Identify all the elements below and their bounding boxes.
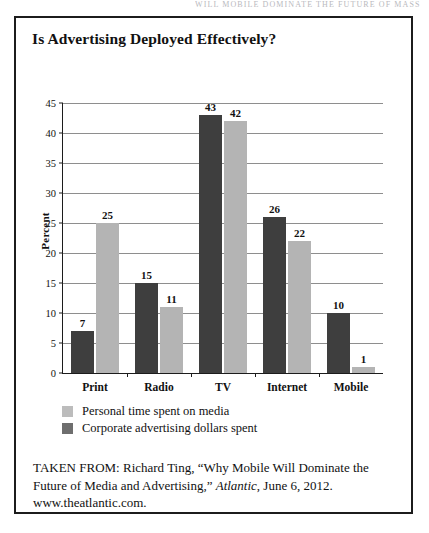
gridline <box>63 163 383 164</box>
bar-mobile-corporate: 10 <box>327 313 350 373</box>
y-axis-tick-mark <box>59 283 63 284</box>
y-axis-tick-label: 20 <box>46 248 57 259</box>
source-publication: Atlantic <box>216 478 257 493</box>
figure-container: Is Advertising Deployed Effectively? Per… <box>14 16 413 514</box>
bar-value-label: 42 <box>230 107 241 119</box>
y-axis-tick-mark <box>59 103 63 104</box>
bar-value-label: 25 <box>102 209 113 221</box>
y-axis-tick-mark <box>59 343 63 344</box>
source-divider <box>32 455 399 456</box>
y-axis-tick-label: 0 <box>51 368 56 379</box>
legend-label-corporate-ad-dollars: Corporate advertising dollars spent <box>82 421 257 436</box>
y-axis-tick-mark <box>59 193 63 194</box>
source-author: Richard Ting, <box>123 460 195 475</box>
bar-value-label: 7 <box>80 317 86 329</box>
bar-value-label: 1 <box>361 353 367 365</box>
bar-mobile-personal: 1 <box>352 367 375 373</box>
bar-radio-corporate: 15 <box>135 283 158 373</box>
bar-tv-personal: 42 <box>224 121 247 373</box>
bar-value-label: 15 <box>141 269 152 281</box>
bar-value-label: 43 <box>205 101 216 113</box>
x-axis-tick-mark <box>319 373 320 377</box>
gridline <box>63 193 383 194</box>
x-axis-tick-mark <box>127 373 128 377</box>
y-axis-tick-label: 15 <box>46 278 57 289</box>
x-axis-label-tv: TV <box>215 381 231 393</box>
source-prefix: TAKEN FROM: <box>33 460 120 475</box>
y-axis-tick-mark <box>59 313 63 314</box>
y-axis-tick-label: 35 <box>46 158 57 169</box>
y-axis-tick-mark <box>59 373 63 374</box>
bar-value-label: 11 <box>166 293 176 305</box>
y-axis-tick-label: 10 <box>46 308 57 319</box>
x-axis-label-print: Print <box>82 381 108 393</box>
bar-value-label: 22 <box>294 227 305 239</box>
legend-swatch-icon-dark <box>62 423 73 434</box>
bar-internet-corporate: 26 <box>263 217 286 373</box>
legend-swatch-icon-light <box>62 406 73 417</box>
x-axis-tick-mark <box>191 373 192 377</box>
bar-tv-corporate: 43 <box>199 115 222 373</box>
legend-item-personal-time: Personal time spent on media <box>62 403 392 420</box>
source-date: , June 6, 2012. <box>257 478 333 493</box>
legend-label-personal-time: Personal time spent on media <box>82 404 229 419</box>
gridline <box>63 103 383 104</box>
page-running-head: WILL MOBILE DOMINATE THE FUTURE OF MASS … <box>195 0 420 9</box>
y-axis-tick-mark <box>59 253 63 254</box>
bar-radio-personal: 11 <box>160 307 183 373</box>
legend-item-corporate-ad-dollars: Corporate advertising dollars spent <box>62 420 392 437</box>
figure-source-note: TAKEN FROM: Richard Ting, “Why Mobile Wi… <box>33 459 399 512</box>
gridline <box>63 133 383 134</box>
bar-chart: Percent 051015202530354045725Print1511Ra… <box>16 70 411 390</box>
x-axis-label-radio: Radio <box>144 381 173 393</box>
y-axis-tick-label: 40 <box>46 128 57 139</box>
y-axis-tick-label: 45 <box>46 98 57 109</box>
y-axis-tick-label: 5 <box>51 338 56 349</box>
x-axis-label-mobile: Mobile <box>334 381 369 393</box>
y-axis-tick-mark <box>59 223 63 224</box>
x-axis-label-internet: Internet <box>267 381 307 393</box>
y-axis-tick-mark <box>59 163 63 164</box>
bar-internet-personal: 22 <box>288 241 311 373</box>
bar-value-label: 10 <box>333 299 344 311</box>
y-axis-tick-mark <box>59 133 63 134</box>
bar-value-label: 26 <box>269 203 280 215</box>
y-axis-tick-label: 30 <box>46 188 57 199</box>
x-axis-tick-mark <box>255 373 256 377</box>
figure-title: Is Advertising Deployed Effectively? <box>32 30 276 48</box>
source-url: www.theatlantic.com. <box>33 495 147 510</box>
chart-legend: Personal time spent on media Corporate a… <box>62 403 392 437</box>
y-axis-tick-label: 25 <box>46 218 57 229</box>
bar-print-personal: 25 <box>96 223 119 373</box>
plot-area: 051015202530354045725Print1511Radio4342T… <box>62 103 383 374</box>
bar-print-corporate: 7 <box>71 331 94 373</box>
